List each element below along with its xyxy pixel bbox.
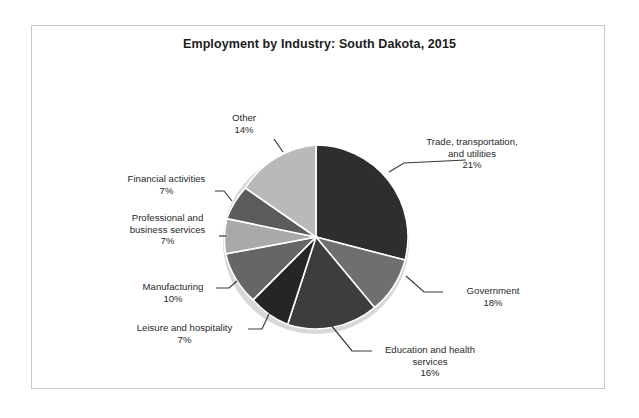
pie-label-manufacturing: Manufacturing 10% <box>133 281 213 304</box>
pie-label-text-line1: Professional and <box>118 212 217 224</box>
pie-label-text-line1: Manufacturing <box>133 281 213 293</box>
pie-label-text-line1: Leisure and hospitality <box>123 322 246 334</box>
pie-label-text-line1: Trade, transportation, <box>402 136 542 148</box>
leader-line-financial-activities <box>215 191 232 201</box>
pie-label-other: Other 14% <box>215 112 273 135</box>
pie-label-percent: 7% <box>119 185 214 197</box>
pie-label-financial-activities: Financial activities 7% <box>119 173 214 196</box>
pie-label-text-line1: Financial activities <box>119 173 214 185</box>
pie-label-leisure-and-hospitality: Leisure and hospitality 7% <box>123 322 246 345</box>
pie-label-text-line2: and utilities <box>402 148 542 160</box>
pie-label-percent: 18% <box>438 297 548 309</box>
leader-line-other <box>274 139 283 152</box>
pie-label-professional-and-business-services: Professional and business services 7% <box>118 212 217 247</box>
pie-label-percent: 14% <box>215 124 273 136</box>
pie-label-percent: 7% <box>123 334 246 346</box>
pie-label-text-line1: Education and health <box>365 344 495 356</box>
pie-label-education-and-health-services: Education and health services 16% <box>365 344 495 379</box>
pie-label-percent: 16% <box>365 367 495 379</box>
pie-label-percent: 7% <box>118 235 217 247</box>
pie-label-percent: 10% <box>133 293 213 305</box>
pie-chart <box>0 0 639 418</box>
pie-label-text-line1: Other <box>215 112 273 124</box>
pie-label-trade-transportation-and-utilities: Trade, transportation, and utilities 21% <box>402 136 542 171</box>
pie-label-text-line2: services <box>365 356 495 368</box>
pie-label-text-line2: business services <box>118 224 217 236</box>
pie-label-government: Government 18% <box>438 285 548 308</box>
pie-label-text-line1: Government <box>438 285 548 297</box>
pie-label-percent: 21% <box>402 159 542 171</box>
chart-figure: Employment by Industry: South Dakota, 20… <box>0 0 639 418</box>
